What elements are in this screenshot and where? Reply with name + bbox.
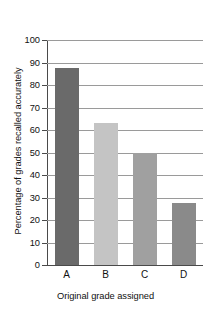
y-axis-tick-mark [42, 265, 47, 266]
y-axis-tick-label: 90 [14, 58, 40, 68]
y-axis-tick-label: 50 [14, 148, 40, 158]
bar-chart: Percentage of grades recalled accurately… [0, 0, 211, 313]
y-axis-tick-mark [42, 220, 47, 221]
x-axis-tick-label: B [91, 269, 121, 281]
bar-d [172, 203, 196, 265]
gridline [47, 40, 203, 41]
y-axis-tick-mark [42, 153, 47, 154]
y-axis-tick-label: 40 [14, 170, 40, 180]
y-axis-tick-mark [42, 175, 47, 176]
y-axis-tick-label: 100 [14, 35, 40, 45]
y-axis-tick-label: 10 [14, 238, 40, 248]
bar-b [94, 123, 118, 265]
gridline [47, 63, 203, 64]
gridline [47, 265, 203, 266]
y-axis-tick-labels: 0102030405060708090100 [8, 0, 40, 313]
y-axis-tick-label: 0 [14, 260, 40, 270]
y-axis-tick-label: 80 [14, 80, 40, 90]
y-axis-tick-label: 70 [14, 103, 40, 113]
y-axis-tick-label: 60 [14, 125, 40, 135]
y-axis-tick-mark [42, 243, 47, 244]
y-axis-tick-label: 20 [14, 215, 40, 225]
y-axis-tick-mark [42, 63, 47, 64]
plot-area [47, 40, 203, 265]
x-axis-title: Original grade assigned [0, 291, 211, 301]
x-axis-tick-label: C [130, 269, 160, 281]
bar-a [55, 68, 79, 265]
bar-c [133, 153, 157, 266]
y-axis-tick-mark [42, 85, 47, 86]
y-axis-tick-label: 30 [14, 193, 40, 203]
x-axis-tick-label: D [169, 269, 199, 281]
x-axis-tick-label: A [52, 269, 82, 281]
y-axis-tick-mark [42, 198, 47, 199]
y-axis-tick-mark [42, 130, 47, 131]
y-axis-tick-mark [42, 40, 47, 41]
y-axis-tick-mark [42, 108, 47, 109]
